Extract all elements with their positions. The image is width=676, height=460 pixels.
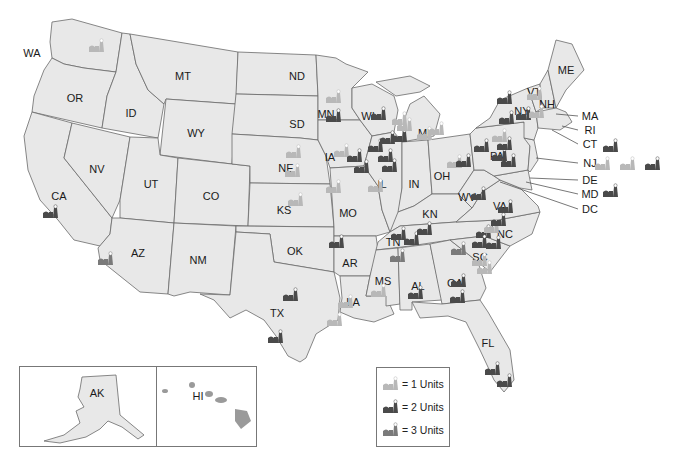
nuclear-plant-icon (620, 156, 636, 170)
nuclear-plant-icon (327, 312, 343, 326)
state-label-ca: CA (51, 190, 66, 202)
nuclear-plant-icon (43, 204, 59, 218)
nuclear-plant-icon (417, 221, 433, 235)
nuclear-plant-icon (429, 121, 445, 135)
nuclear-plant-icon (338, 294, 354, 308)
nuclear-plant-icon (477, 260, 493, 274)
legend-label: = 1 Units (402, 378, 444, 390)
nuclear-plant-icon (603, 183, 619, 197)
nuclear-plant-icon (529, 104, 545, 118)
hawaii-inset: HI (156, 366, 257, 447)
nuclear-plant-icon (474, 138, 490, 152)
callout-label-ma: MA (582, 110, 599, 122)
nuclear-plant-icon (268, 329, 284, 343)
callout-label-ct: CT (583, 138, 598, 150)
nuclear-plant-icon (283, 287, 299, 301)
nuclear-plant-icon (498, 199, 514, 213)
state-label-kn: KN (422, 208, 437, 220)
nuclear-plant-icon (368, 178, 384, 192)
state-label-ok: OK (287, 245, 303, 257)
state-label-ak: AK (90, 387, 105, 399)
nuclear-plant-icon (497, 373, 513, 387)
state-label-mo: MO (339, 207, 357, 219)
nuclear-plant-icon (98, 251, 114, 265)
nuclear-plant-icon (451, 273, 467, 287)
nuclear-plant-icon (497, 136, 513, 150)
nuclear-plant-icon (486, 235, 502, 249)
nuclear-plant-icon (397, 117, 413, 131)
state-label-ut: UT (144, 178, 159, 190)
nuclear-plant-icon (451, 241, 467, 255)
nuclear-plant-icon (603, 138, 619, 152)
state-label-ar: AR (342, 257, 357, 269)
nuclear-plant-icon (329, 234, 345, 248)
nuclear-plant-icon (390, 248, 406, 262)
state-label-wa: WA (23, 47, 40, 59)
nuclear-plant-icon (354, 159, 370, 173)
nuclear-plant-icon (371, 283, 387, 297)
legend-row-3-units: = 3 Units (383, 422, 444, 438)
callout-label-ri: RI (585, 124, 596, 136)
nuclear-plant-icon (497, 90, 513, 104)
nuclear-plant-icon (285, 163, 301, 177)
nuclear-plant-icon (286, 144, 302, 158)
hawaii-shape (157, 367, 258, 448)
nuclear-plant-icon (527, 86, 543, 100)
state-label-nv: NV (89, 163, 104, 175)
nuclear-plant-icon (595, 156, 611, 170)
state-label-co: CO (203, 190, 220, 202)
callout-label-md: MD (581, 188, 598, 200)
state-label-hi: HI (193, 390, 204, 402)
state-label-az: AZ (131, 247, 145, 259)
state-label-wy: WY (187, 127, 205, 139)
nuclear-plant-icon (456, 153, 472, 167)
nuclear-plant-icon (491, 212, 507, 226)
nuclear-plant-icon (288, 192, 304, 206)
state-label-tx: TX (270, 307, 284, 319)
state-label-nd: ND (289, 70, 305, 82)
state-label-me: ME (558, 64, 575, 76)
legend-label: = 2 Units (402, 401, 444, 413)
state-label-nm: NM (189, 254, 206, 266)
nuclear-plant-icon (89, 38, 105, 52)
alaska-shape (20, 367, 158, 448)
nuclear-plant-icon (499, 110, 515, 124)
state-label-fl: FL (482, 337, 495, 349)
callout-label-dc: DC (582, 203, 598, 215)
state-label-mt: MT (175, 70, 191, 82)
state-label-or: OR (67, 92, 84, 104)
callout-label-de: DE (582, 174, 597, 186)
legend-row-1-unit: = 1 Units (383, 376, 444, 392)
plant-icon-2-units (383, 399, 399, 415)
nuclear-plant-icon (326, 89, 342, 103)
plant-icon-3-units (383, 422, 399, 438)
nuclear-plant-icon (371, 106, 387, 120)
state-label-id: ID (126, 107, 137, 119)
plant-icon-1-unit (383, 376, 399, 392)
nuclear-plant-icon (326, 179, 342, 193)
state-label-sd: SD (289, 118, 304, 130)
alaska-inset: AK (19, 366, 157, 447)
legend-label: = 3 Units (402, 424, 444, 436)
legend: = 1 Units = 2 Units = 3 Units (376, 367, 450, 447)
nuclear-plant-icon (382, 158, 398, 172)
state-label-oh: OH (434, 170, 451, 182)
nuclear-plant-icon (471, 186, 487, 200)
nuclear-plant-icon (645, 156, 661, 170)
nuclear-plant-icon (450, 289, 466, 303)
nuclear-plant-icon (408, 285, 424, 299)
state-label-in: IN (409, 178, 420, 190)
nuclear-plant-icon (326, 108, 342, 122)
legend-row-2-units: = 2 Units (383, 399, 444, 415)
